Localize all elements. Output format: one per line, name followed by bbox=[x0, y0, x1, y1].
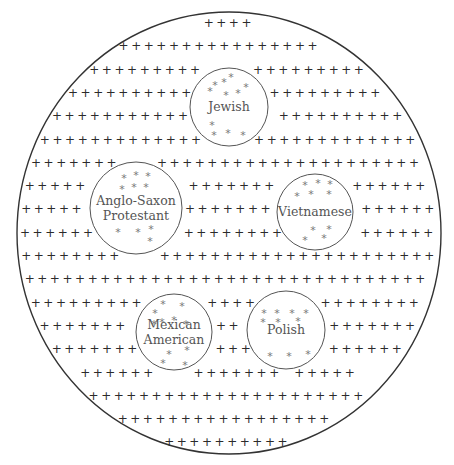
group-label: Anglo-Saxon bbox=[95, 193, 175, 208]
majority-member-plus: + bbox=[307, 412, 317, 426]
majority-member-plus: + bbox=[265, 435, 275, 449]
majority-member-plus: + bbox=[289, 272, 299, 286]
majority-member-plus: + bbox=[365, 272, 375, 286]
majority-member-plus: + bbox=[390, 179, 400, 193]
majority-member-plus: + bbox=[21, 202, 31, 216]
majority-member-plus: + bbox=[341, 63, 351, 77]
majority-member-plus: + bbox=[216, 319, 226, 333]
majority-member-plus: + bbox=[215, 342, 225, 356]
majority-member-plus: + bbox=[314, 272, 324, 286]
majority-member-plus: + bbox=[303, 63, 313, 77]
minority-member-asterisk: * bbox=[221, 76, 227, 89]
majority-member-plus: + bbox=[127, 342, 137, 356]
majority-member-plus: + bbox=[261, 202, 271, 216]
majority-member-plus: + bbox=[21, 249, 31, 263]
majority-member-plus: + bbox=[177, 435, 187, 449]
majority-member-plus: + bbox=[223, 249, 233, 263]
majority-member-plus: + bbox=[411, 226, 421, 240]
majority-member-plus: + bbox=[308, 156, 318, 170]
majority-member-plus: + bbox=[247, 226, 257, 240]
majority-row: ++++++++++++++++ bbox=[40, 319, 415, 333]
majority-member-plus: + bbox=[365, 179, 375, 193]
majority-member-plus: + bbox=[277, 272, 287, 286]
majority-member-plus: + bbox=[25, 272, 35, 286]
majority-member-plus: + bbox=[59, 202, 69, 216]
majority-member-plus: + bbox=[257, 366, 267, 380]
majority-member-plus: + bbox=[244, 412, 254, 426]
majority-member-plus: + bbox=[168, 412, 178, 426]
majority-member-plus: + bbox=[143, 366, 153, 380]
majority-member-plus: + bbox=[257, 39, 267, 53]
majority-member-plus: + bbox=[384, 296, 394, 310]
majority-member-plus: + bbox=[244, 366, 254, 380]
majority-member-plus: + bbox=[399, 202, 409, 216]
majority-member-plus: + bbox=[358, 86, 368, 100]
majority-member-plus: + bbox=[333, 86, 343, 100]
majority-member-plus: + bbox=[140, 63, 150, 77]
majority-member-plus: + bbox=[371, 296, 381, 310]
majority-member-plus: + bbox=[346, 156, 356, 170]
majority-member-plus: + bbox=[355, 133, 365, 147]
majority-member-plus: + bbox=[329, 63, 339, 77]
majority-member-plus: + bbox=[295, 86, 305, 100]
majority-member-plus: + bbox=[50, 272, 60, 286]
majority-member-plus: + bbox=[424, 202, 434, 216]
group-label: Mexican bbox=[147, 317, 201, 332]
majority-member-plus: + bbox=[327, 272, 337, 286]
majority-member-plus: + bbox=[248, 249, 258, 263]
majority-member-plus: + bbox=[115, 342, 125, 356]
majority-member-plus: + bbox=[329, 109, 339, 123]
majority-member-plus: + bbox=[266, 63, 276, 77]
majority-member-plus: + bbox=[361, 202, 371, 216]
majority-member-plus: + bbox=[125, 272, 135, 286]
majority-member-plus: + bbox=[252, 435, 262, 449]
majority-member-plus: + bbox=[189, 389, 199, 403]
minority-member-asterisk: * bbox=[321, 232, 327, 245]
majority-member-plus: + bbox=[172, 249, 182, 263]
majority-member-plus: + bbox=[102, 342, 112, 356]
majority-row: ++++ bbox=[204, 16, 252, 30]
majority-member-plus: + bbox=[239, 179, 249, 193]
minority-member-asterisk: * bbox=[294, 190, 300, 203]
majority-member-plus: + bbox=[216, 16, 226, 30]
majority-member-plus: + bbox=[131, 86, 141, 100]
majority-member-plus: + bbox=[163, 272, 173, 286]
majority-member-plus: + bbox=[206, 412, 216, 426]
minority-member-asterisk: * bbox=[243, 81, 249, 94]
majority-member-plus: + bbox=[94, 156, 104, 170]
minority-member-asterisk: * bbox=[225, 127, 231, 140]
minority-member-asterisk: * bbox=[115, 226, 121, 239]
majority-member-plus: + bbox=[89, 389, 99, 403]
majority-member-plus: + bbox=[165, 109, 175, 123]
majority-member-plus: + bbox=[384, 156, 394, 170]
majority-member-plus: + bbox=[239, 272, 249, 286]
majority-member-plus: + bbox=[195, 156, 205, 170]
majority-member-plus: + bbox=[113, 272, 123, 286]
minority-member-asterisk: * bbox=[147, 235, 153, 248]
majority-member-plus: + bbox=[181, 412, 191, 426]
majority-member-plus: + bbox=[229, 16, 239, 30]
ethnic-group-jewish: ***********Jewish bbox=[190, 68, 268, 146]
majority-member-plus: + bbox=[182, 39, 192, 53]
majority-member-plus: + bbox=[103, 319, 113, 333]
majority-member-plus: + bbox=[341, 389, 351, 403]
majority-member-plus: + bbox=[412, 202, 422, 216]
majority-member-plus: + bbox=[109, 249, 119, 263]
majority-member-plus: + bbox=[119, 39, 129, 53]
majority-member-plus: + bbox=[194, 366, 204, 380]
majority-member-plus: + bbox=[169, 86, 179, 100]
majority-member-plus: + bbox=[215, 389, 225, 403]
majority-member-plus: + bbox=[50, 179, 60, 193]
majority-member-plus: + bbox=[114, 389, 124, 403]
majority-member-plus: + bbox=[84, 249, 94, 263]
minority-member-asterisk: * bbox=[182, 359, 188, 372]
majority-member-plus: + bbox=[330, 133, 340, 147]
group-label: American bbox=[143, 332, 205, 347]
majority-row: ++++++++++++++++ bbox=[52, 342, 402, 356]
majority-member-plus: + bbox=[270, 156, 280, 170]
majority-member-plus: + bbox=[202, 435, 212, 449]
majority-member-plus: + bbox=[215, 435, 225, 449]
minority-member-asterisk: * bbox=[315, 177, 321, 190]
majority-member-plus: + bbox=[153, 109, 163, 123]
majority-member-plus: + bbox=[75, 272, 85, 286]
